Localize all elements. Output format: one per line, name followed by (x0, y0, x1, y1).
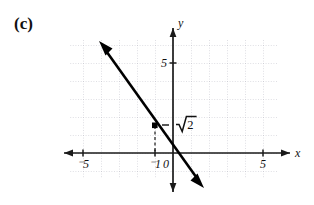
x-tick-label--1: ⁻1 (149, 157, 161, 171)
x-tick-label-5: 5 (260, 157, 266, 171)
sqrt2-radicand: 2 (187, 118, 193, 132)
y-axis-label: y (177, 16, 184, 30)
x-tick-label-0: 0 (163, 157, 169, 171)
x-tick-label--5: ⁻5 (77, 157, 89, 171)
figure-root: (c) (0, 0, 314, 205)
coordinate-plot: x y ⁻5 ⁻1 0 5 5 2 (0, 0, 314, 205)
y-tick-label-5: 5 (161, 56, 167, 70)
data-point-marker (152, 123, 158, 129)
x-axis-label: x (294, 146, 301, 160)
